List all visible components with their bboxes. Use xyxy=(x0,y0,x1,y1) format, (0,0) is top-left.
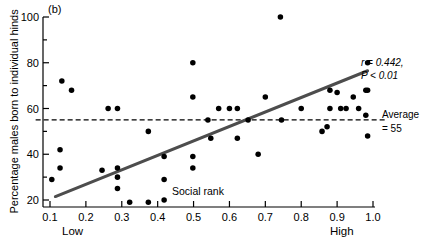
data-point xyxy=(363,113,369,119)
correlation-annotation: r = 0.442, xyxy=(361,58,404,68)
x-axis-title: Social rank xyxy=(172,186,224,197)
data-point xyxy=(115,174,121,180)
svg-text:40: 40 xyxy=(27,148,39,160)
data-point xyxy=(334,90,340,96)
svg-text:0.2: 0.2 xyxy=(78,211,93,223)
panel-label: (b) xyxy=(48,4,61,15)
data-point xyxy=(205,117,211,123)
data-point xyxy=(161,177,167,183)
data-point xyxy=(227,106,233,112)
data-point xyxy=(127,200,133,206)
data-point xyxy=(327,106,333,112)
data-point xyxy=(146,129,152,135)
data-point xyxy=(99,168,105,174)
svg-text:0.9: 0.9 xyxy=(329,211,344,223)
average-label-line1: Average xyxy=(382,110,419,120)
data-point xyxy=(365,133,371,139)
data-point xyxy=(298,106,304,112)
x-axis-high-label: High xyxy=(330,226,354,238)
svg-text:20: 20 xyxy=(27,194,39,206)
data-point xyxy=(255,151,261,157)
data-point xyxy=(49,177,55,183)
data-point xyxy=(161,154,167,160)
data-point xyxy=(279,117,285,123)
pvalue-annotation: P < 0.01 xyxy=(361,71,398,81)
data-point xyxy=(351,94,357,100)
svg-text:60: 60 xyxy=(27,103,39,115)
data-point xyxy=(208,135,214,141)
svg-text:0.1: 0.1 xyxy=(42,211,57,223)
scatter-plot-svg: 204060801000.10.20.30.40.50.60.70.80.91.… xyxy=(0,0,429,244)
data-point xyxy=(278,14,284,20)
x-axis-low-label: Low xyxy=(62,226,83,238)
data-point xyxy=(190,60,196,66)
data-point xyxy=(190,154,196,160)
svg-text:80: 80 xyxy=(27,57,39,69)
data-point xyxy=(216,106,222,112)
data-point xyxy=(365,87,371,93)
data-point xyxy=(115,165,121,171)
data-point xyxy=(324,124,330,130)
average-label-line2: = 55 xyxy=(382,124,402,134)
figure-panel-b: 204060801000.10.20.30.40.50.60.70.80.91.… xyxy=(0,0,429,244)
data-point xyxy=(190,165,196,171)
data-point xyxy=(356,106,362,112)
data-point xyxy=(190,94,196,100)
data-point xyxy=(235,106,241,112)
svg-text:0.3: 0.3 xyxy=(114,211,129,223)
data-point xyxy=(343,106,349,112)
svg-text:0.4: 0.4 xyxy=(150,211,165,223)
data-point xyxy=(146,200,152,206)
data-point xyxy=(59,78,65,84)
data-point xyxy=(115,106,121,112)
data-points-group xyxy=(49,14,370,205)
data-point xyxy=(57,147,63,153)
svg-text:100: 100 xyxy=(21,11,39,23)
svg-text:0.6: 0.6 xyxy=(222,211,237,223)
data-point xyxy=(115,186,121,192)
y-axis-title: Percentage males born to individual hind… xyxy=(9,14,20,214)
data-point xyxy=(319,129,325,135)
data-point xyxy=(161,197,167,203)
data-point xyxy=(57,165,63,171)
data-point xyxy=(105,106,111,112)
data-point xyxy=(245,117,251,123)
svg-text:0.7: 0.7 xyxy=(258,211,273,223)
data-point xyxy=(263,94,269,100)
svg-text:1.0: 1.0 xyxy=(365,211,380,223)
data-point xyxy=(338,106,344,112)
data-point xyxy=(235,135,241,141)
svg-text:0.8: 0.8 xyxy=(294,211,309,223)
data-point xyxy=(327,87,333,93)
data-point xyxy=(69,87,75,93)
svg-text:0.5: 0.5 xyxy=(186,211,201,223)
